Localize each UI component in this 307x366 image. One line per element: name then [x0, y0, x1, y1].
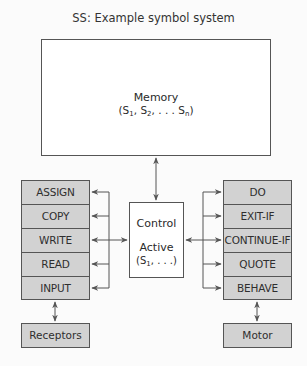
connector-arrows: [0, 0, 307, 366]
